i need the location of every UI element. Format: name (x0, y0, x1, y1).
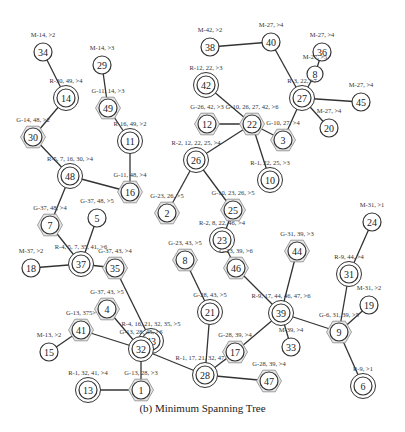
node-label: M-27, >4 (317, 107, 342, 114)
node-label: G-23, 26, >5 (150, 192, 183, 199)
node-21: 21G-28, 43, >5 (193, 291, 226, 325)
svg-text:47: 47 (264, 376, 274, 387)
node-28: 28R-1, 17, 21, 32, 47, >5 (176, 354, 235, 388)
svg-text:35: 35 (110, 263, 120, 274)
svg-text:34: 34 (38, 47, 48, 58)
svg-text:19: 19 (364, 300, 374, 311)
node-42: 42R-12, 22, >3 (190, 64, 223, 98)
svg-text:48: 48 (65, 171, 75, 182)
svg-text:45: 45 (356, 97, 366, 108)
node-label: G-6, 31, 39, >5 (319, 311, 359, 318)
node-38: 38M-42, >2 (198, 26, 223, 56)
node-45: 45M-27, >4 (349, 81, 374, 111)
node-35: 35G-37, 43, >4 (98, 247, 132, 279)
node-12: 12G-26, 42, >3 (190, 103, 223, 135)
node-44: 44G-31, 39, >3 (280, 230, 313, 262)
svg-text:33: 33 (286, 342, 296, 353)
svg-text:40: 40 (266, 37, 276, 48)
node-49: 49G-11, 14, >3 (91, 87, 124, 119)
node-1: 1G-13, 28, >3 (124, 369, 157, 401)
node-label: M-27, >4 (259, 21, 284, 28)
node-label: G-37, 43, >4 (98, 247, 132, 254)
node-label: R-9, 17, 44, 46, 47, >6 (252, 292, 312, 299)
node-label: G-28, 39, >4 (252, 360, 286, 367)
node-26: 26R-2, 12, 22, 25, >4 (171, 139, 221, 173)
node-16: 16G-11, 48, >4 (113, 171, 147, 203)
node-7: 7G-37, 48, >4 (33, 204, 67, 236)
svg-text:3: 3 (281, 135, 286, 146)
svg-text:20: 20 (324, 123, 334, 134)
node-label: M-31, >2 (357, 284, 382, 291)
node-label: G-10, 26, 27, 42, >6 (226, 103, 280, 110)
node-label: R-4, 16, 21, 32, 35, >5 (122, 320, 181, 327)
svg-text:4: 4 (105, 304, 110, 315)
node-31: 31R-9, 44, >4 (334, 253, 364, 287)
node-24: 24M-31, >1 (360, 201, 385, 231)
svg-text:32: 32 (136, 344, 146, 355)
node-label: R-12, 22, >3 (190, 64, 223, 71)
node-label: G-31, 39, >3 (280, 230, 313, 237)
node-label: R-9, >1 (353, 365, 373, 372)
svg-text:14: 14 (61, 93, 71, 104)
node-18: 18M-37, >2 (19, 247, 44, 277)
node-label: R-16, 49, >2 (114, 120, 147, 127)
svg-text:38: 38 (205, 42, 215, 53)
node-label: G-11, 48, >4 (113, 171, 147, 178)
node-label: M-42, >2 (198, 26, 223, 33)
svg-text:12: 12 (202, 119, 212, 130)
node-label: G-23, 43, >5 (168, 239, 201, 246)
svg-text:22: 22 (247, 119, 257, 130)
node-label: G-28, 39, >4 (218, 331, 252, 338)
node-8: 8G-23, 43, >5 (168, 239, 201, 271)
svg-text:42: 42 (201, 80, 211, 91)
node-20: 20M-27, >4 (317, 107, 342, 137)
node-label: M-27, >4 (310, 31, 335, 38)
node-label: G-37, 48, >5 (80, 197, 113, 204)
node-label: G-14, 48, >2 (16, 116, 49, 123)
svg-text:23: 23 (217, 235, 227, 246)
node-13: 13R-1, 32, 41, >4 (68, 369, 108, 403)
svg-text:10: 10 (265, 175, 275, 186)
node-41: 41G-13, 375> (66, 309, 96, 341)
svg-text:30: 30 (28, 132, 38, 143)
svg-text:16: 16 (125, 187, 135, 198)
svg-text:49: 49 (103, 103, 113, 114)
svg-text:11: 11 (125, 136, 135, 147)
node-label: G-11, 14, >3 (91, 87, 124, 94)
node-label: M-37, >2 (19, 247, 44, 254)
node-label: R-1, 32, 41, >4 (68, 369, 108, 376)
node-2: 2G-23, 26, >5 (150, 192, 183, 224)
svg-text:13: 13 (83, 385, 93, 396)
svg-text:41: 41 (76, 325, 86, 336)
node-label: G-26, 42, >3 (190, 103, 223, 110)
svg-text:27: 27 (297, 93, 307, 104)
node-label: G-10, 27, >4 (266, 119, 300, 126)
node-19: 19M-31, >2 (357, 284, 382, 314)
svg-text:2: 2 (165, 208, 170, 219)
node-label: G-28, 43, >5 (193, 291, 226, 298)
node-34: 34M-14, >2 (31, 31, 56, 61)
node-label: R-1, 22, 25, >3 (250, 159, 289, 166)
node-14: 14R-30, 49, >4 (50, 77, 84, 111)
node-label: G-10, 23, 26, >5 (211, 189, 254, 196)
node-label: R-30, 49, >4 (50, 77, 84, 84)
node-label: M-13, >2 (37, 331, 62, 338)
svg-text:6: 6 (361, 381, 366, 392)
svg-text:24: 24 (367, 217, 377, 228)
node-label: R-5, 7, 16, 30, >4 (47, 155, 94, 162)
node-29: 29M-14, >3 (90, 44, 115, 74)
svg-text:5: 5 (95, 213, 100, 224)
mst-diagram: 34M-14, >214R-30, 49, >430G-14, 48, >229… (0, 0, 405, 432)
node-label: M-31, >1 (360, 201, 385, 208)
node-10: 10R-1, 22, 25, >3 (250, 159, 289, 193)
node-label: R-2, 12, 22, 25, >4 (171, 139, 221, 146)
node-label: M-14, >3 (90, 44, 115, 51)
svg-text:15: 15 (44, 347, 54, 358)
svg-text:18: 18 (26, 263, 36, 274)
node-11: 11R-16, 49, >2 (114, 120, 147, 154)
node-25: 25G-10, 23, 26, >5 (211, 189, 254, 221)
node-layer: 34M-14, >214R-30, 49, >430G-14, 48, >229… (16, 21, 384, 403)
svg-text:26: 26 (191, 155, 201, 166)
svg-text:28: 28 (200, 370, 210, 381)
svg-text:25: 25 (228, 205, 238, 216)
